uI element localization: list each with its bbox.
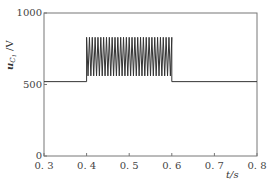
y-tick-label: 1000 [17, 7, 42, 18]
plot-frame [44, 13, 257, 156]
series-uc1-line [44, 37, 257, 81]
x-tick-label: 0. 4 [77, 160, 96, 171]
chart: 0. 30. 40. 50. 60. 70. 805001000t/suC1 /… [0, 0, 272, 187]
x-tick-label: 0. 6 [162, 160, 181, 171]
y-axis-label: uC1 /V [4, 40, 17, 70]
x-tick-label: 0. 8 [247, 160, 266, 171]
y-tick-label: 0 [36, 150, 42, 161]
y-tick-label: 500 [23, 79, 42, 90]
x-axis-label: t/s [226, 169, 239, 180]
x-tick-label: 0. 5 [120, 160, 139, 171]
x-tick-label: 0. 7 [205, 160, 224, 171]
x-tick-label: 0. 3 [34, 160, 53, 171]
